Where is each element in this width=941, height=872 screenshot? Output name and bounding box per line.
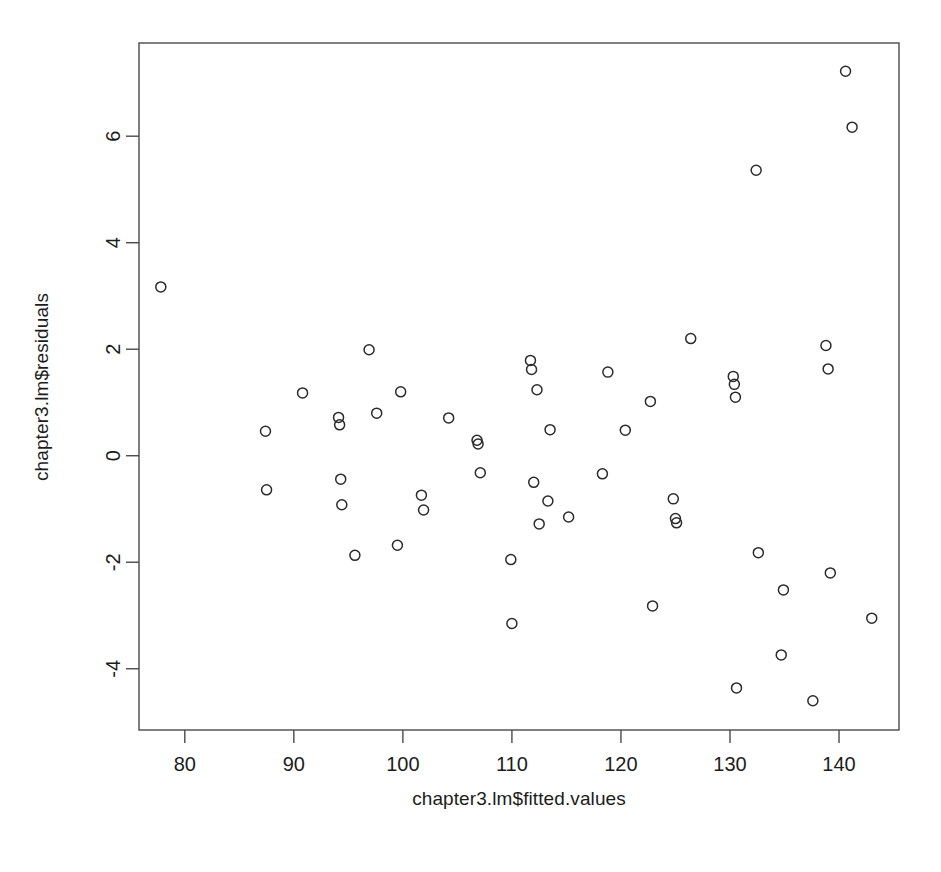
y-tick-label: 4 (102, 237, 124, 248)
x-tick-label: 90 (283, 753, 305, 775)
figure-background (0, 0, 941, 872)
x-tick-label: 110 (496, 753, 528, 775)
x-tick-label: 130 (713, 753, 746, 775)
y-tick-label: -4 (102, 660, 124, 678)
scatter-plot-figure: 8090100110120130140 -4-20246 chapter3.lm… (0, 0, 941, 872)
x-tick-label: 120 (604, 753, 637, 775)
x-axis-title: chapter3.lm$fitted.values (412, 788, 626, 809)
y-tick-label: -2 (102, 553, 124, 571)
x-tick-label: 100 (386, 753, 419, 775)
plot-canvas: 8090100110120130140 -4-20246 chapter3.lm… (0, 0, 941, 872)
y-axis-title: chapter3.lm$residuals (31, 293, 52, 481)
y-tick-label: 2 (102, 344, 124, 355)
y-tick-label: 6 (102, 131, 124, 142)
y-tick-label: 0 (102, 450, 124, 461)
x-tick-label: 140 (822, 753, 855, 775)
x-tick-label: 80 (174, 753, 196, 775)
